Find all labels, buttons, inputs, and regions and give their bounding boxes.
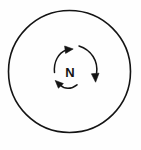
arrow-right	[79, 46, 99, 82]
arrow-lower-left	[55, 80, 77, 88]
arrow-right-shaft	[79, 46, 97, 73]
arrow-upper-left-head	[65, 46, 74, 53]
diagram-canvas: N	[0, 0, 141, 150]
arrow-right-head	[91, 73, 99, 82]
center-label-n: N	[65, 65, 74, 80]
arrow-lower-left-shaft	[61, 85, 77, 88]
rotation-diagram: N	[0, 0, 141, 150]
